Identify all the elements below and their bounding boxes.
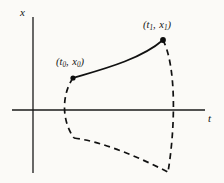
start-label-x-subscript: 0 bbox=[77, 61, 81, 69]
start-point-label: (t0, x0) bbox=[56, 57, 84, 68]
end-label-x-subscript: 1 bbox=[164, 24, 168, 32]
end-point-label: (t1, x1) bbox=[143, 20, 171, 31]
bottom-boundary-arc bbox=[74, 138, 168, 172]
start-label-t-subscript: 0 bbox=[62, 61, 66, 69]
start-point-marker bbox=[70, 75, 75, 80]
trajectory-figure: x t (t0, x0) (t1, x1) bbox=[0, 0, 224, 183]
end-label-close-paren: ) bbox=[168, 19, 172, 30]
x-axis-label: x bbox=[20, 7, 25, 18]
end-point-marker bbox=[160, 37, 166, 43]
end-label-t-subscript: 1 bbox=[149, 24, 153, 32]
left-boundary-arc bbox=[65, 78, 75, 138]
optimal-trajectory-curve bbox=[73, 40, 163, 78]
figure-canvas bbox=[0, 0, 224, 183]
t-axis-label: t bbox=[208, 113, 211, 124]
start-label-close-paren: ) bbox=[81, 56, 85, 67]
right-boundary-arc bbox=[163, 40, 173, 172]
